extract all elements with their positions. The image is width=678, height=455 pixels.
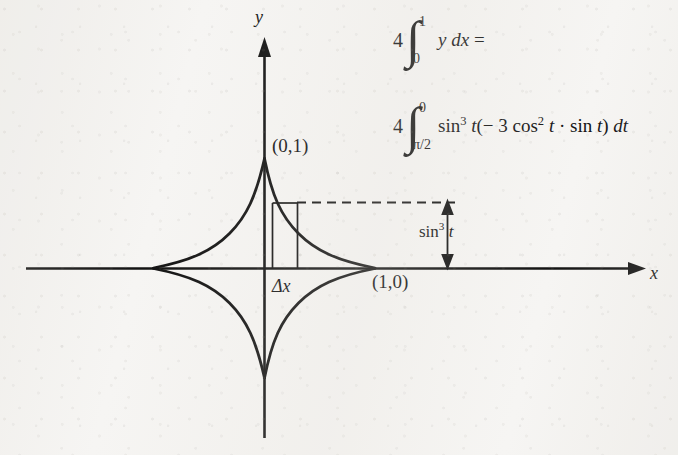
coefficient: 4: [393, 29, 403, 52]
upper-limit: 1: [419, 14, 426, 30]
sin-variable: t: [449, 222, 454, 241]
sin-base: sin: [419, 222, 439, 241]
lower-limit: π/2: [413, 137, 431, 153]
minus-sign: −: [483, 116, 494, 137]
close-paren: ): [602, 116, 608, 137]
point-label-right: (1,0): [372, 272, 408, 291]
delta-x-label: Δx: [272, 277, 291, 295]
cos-base: cos: [513, 116, 538, 137]
astroid-figure: [0, 0, 678, 455]
integral-sign-2: ∫ 0 π/2: [406, 101, 428, 151]
riemann-strip: [273, 203, 298, 268]
strip-height-label: sin3 t: [419, 221, 453, 240]
coefficient-three: 3: [498, 116, 508, 137]
point-label-top: (0,1): [272, 136, 308, 155]
equals-sign: =: [474, 29, 485, 50]
coefficient: 4: [393, 115, 403, 138]
sin-base-2: sin: [570, 116, 592, 137]
sin-exponent: 3: [439, 220, 445, 232]
integral-sign-1: ∫ 1 0: [406, 15, 428, 65]
cos-exponent: 2: [538, 114, 544, 128]
expression-substituted-integral: 4 ∫ 0 π/2 sin3 t(− 3 cos2 t · sin t) dt: [393, 101, 628, 151]
integrand-1: y dx =: [438, 29, 485, 51]
dot-operator: ·: [559, 116, 565, 137]
integrand-text: y dx: [438, 29, 469, 50]
differential: dt: [613, 116, 628, 137]
integrand-2: sin3 t(− 3 cos2 t · sin t) dt: [438, 114, 628, 137]
sin-exponent: 3: [460, 114, 466, 128]
sin-base: sin: [438, 116, 460, 137]
x-axis-label: x: [650, 264, 658, 282]
upper-limit: 0: [419, 100, 426, 116]
y-axis-label: y: [255, 8, 263, 26]
cos-variable: t: [549, 116, 554, 137]
lower-limit: 0: [413, 51, 420, 67]
expression-area-integral: 4 ∫ 1 0 y dx =: [393, 15, 485, 65]
x-axis: [26, 262, 646, 275]
